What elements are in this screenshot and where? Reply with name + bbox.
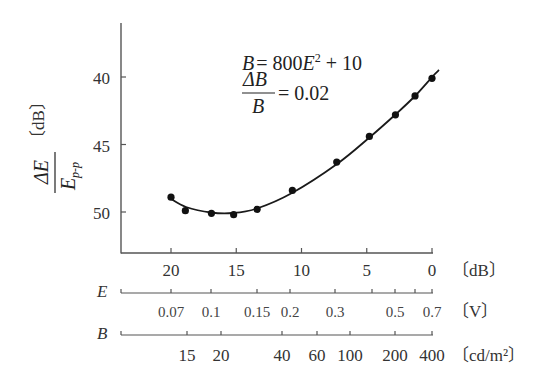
chart: 40455020151050〔dB〕0.070.10.150.20.30.50.… <box>0 0 544 389</box>
e-tick-label: 0.2 <box>281 304 300 320</box>
e-axis-name: E <box>96 282 108 301</box>
x-tick-label: 0 <box>428 261 437 280</box>
b-tick-label: 60 <box>309 346 326 365</box>
y-label-numerator: ΔE <box>30 160 52 185</box>
data-point <box>230 211 237 218</box>
e-tick-label: 0.15 <box>244 304 270 320</box>
data-point <box>428 75 435 82</box>
b-tick-label: 40 <box>274 346 291 365</box>
e-tick-label: 0.7 <box>423 304 442 320</box>
x-tick-label: 5 <box>363 261 372 280</box>
data-point <box>208 210 215 217</box>
data-point <box>289 187 296 194</box>
ratio-numerator: ΔB <box>242 68 267 90</box>
y-tick-label: 50 <box>93 204 110 223</box>
y-label-denominator: Ep-p <box>57 162 82 191</box>
data-point <box>392 111 399 118</box>
labels: 40455020151050〔dB〕0.070.10.150.20.30.50.… <box>29 51 525 365</box>
x-tick-label: 15 <box>228 261 245 280</box>
ratio-denominator: B <box>252 95 264 117</box>
b-tick-label: 400 <box>419 346 445 365</box>
b-axis-name: B <box>97 324 108 343</box>
data-point <box>366 133 373 140</box>
b-tick-label: 15 <box>179 346 196 365</box>
x-unit-db: 〔dB〕 <box>452 261 506 280</box>
e-tick-label: 0.3 <box>326 304 345 320</box>
data-point <box>254 206 261 213</box>
e-tick-label: 0.5 <box>386 304 405 320</box>
b-tick-label: 100 <box>337 346 363 365</box>
y-tick-label: 45 <box>93 137 110 156</box>
y-tick-label: 40 <box>93 69 110 88</box>
data-point <box>182 207 189 214</box>
e-tick-label: 0.1 <box>202 304 221 320</box>
data-point <box>411 92 418 99</box>
x-tick-label: 20 <box>163 261 180 280</box>
y-label-unit: 〔dB〕 <box>29 93 48 147</box>
ratio-value: = 0.02 <box>278 82 329 104</box>
b-tick-label: 20 <box>213 346 230 365</box>
data-point <box>333 158 340 165</box>
b-tick-label: 200 <box>382 346 408 365</box>
x-unit-cdm2: 〔cd/m²〕 <box>452 346 525 365</box>
e-tick-label: 0.07 <box>158 304 185 320</box>
y-axis-label: ΔEEp-p〔dB〕 <box>29 93 82 193</box>
data-point <box>167 194 174 201</box>
x-unit-v: 〔V〕 <box>452 302 498 321</box>
x-tick-label: 10 <box>293 261 310 280</box>
